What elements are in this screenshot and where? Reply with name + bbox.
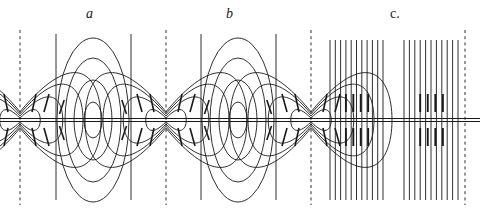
arc-b-2-l-bot-1 bbox=[268, 120, 311, 143]
arc-b-1-l-bot-2 bbox=[103, 120, 166, 156]
loop-a-0-2 bbox=[65, 58, 121, 182]
arc-b-1-l-bot-1 bbox=[123, 120, 166, 143]
loop-a-1-2 bbox=[210, 58, 266, 182]
label-c: c. bbox=[390, 6, 400, 22]
arc-b-2-r-bot-2 bbox=[311, 120, 374, 156]
arc-b-0-r-bot-2 bbox=[20, 120, 83, 156]
arc-b-1-l-top-2 bbox=[103, 84, 166, 120]
loop-a-0-1 bbox=[74, 80, 112, 160]
loop-a-1-0 bbox=[229, 102, 247, 138]
loop-a-1-3 bbox=[202, 38, 274, 202]
arc-b-2-r-top-2 bbox=[311, 84, 374, 120]
arc-b-2-l-top-2 bbox=[248, 84, 311, 120]
loop-a-0-3 bbox=[57, 38, 129, 202]
label-a: a bbox=[86, 6, 93, 22]
arc-b-2-r-bot-1 bbox=[311, 120, 354, 143]
field-line-figure: a b c. bbox=[0, 0, 484, 219]
arc-b-0-r-top-2 bbox=[20, 84, 83, 120]
arc-b-2-r-top-1 bbox=[311, 97, 354, 120]
arc-b-2-l-top-1 bbox=[268, 97, 311, 120]
arc-b-1-l-top-1 bbox=[123, 97, 166, 120]
loop-a-0-0 bbox=[84, 102, 102, 138]
arc-b-0-l-top-2 bbox=[0, 84, 20, 120]
arc-b-2-l-bot-2 bbox=[248, 120, 311, 156]
arc-b-0-l-bot-2 bbox=[0, 120, 20, 156]
label-b: b bbox=[226, 6, 233, 22]
figure-canvas bbox=[0, 0, 484, 219]
loop-a-1-1 bbox=[219, 80, 257, 160]
